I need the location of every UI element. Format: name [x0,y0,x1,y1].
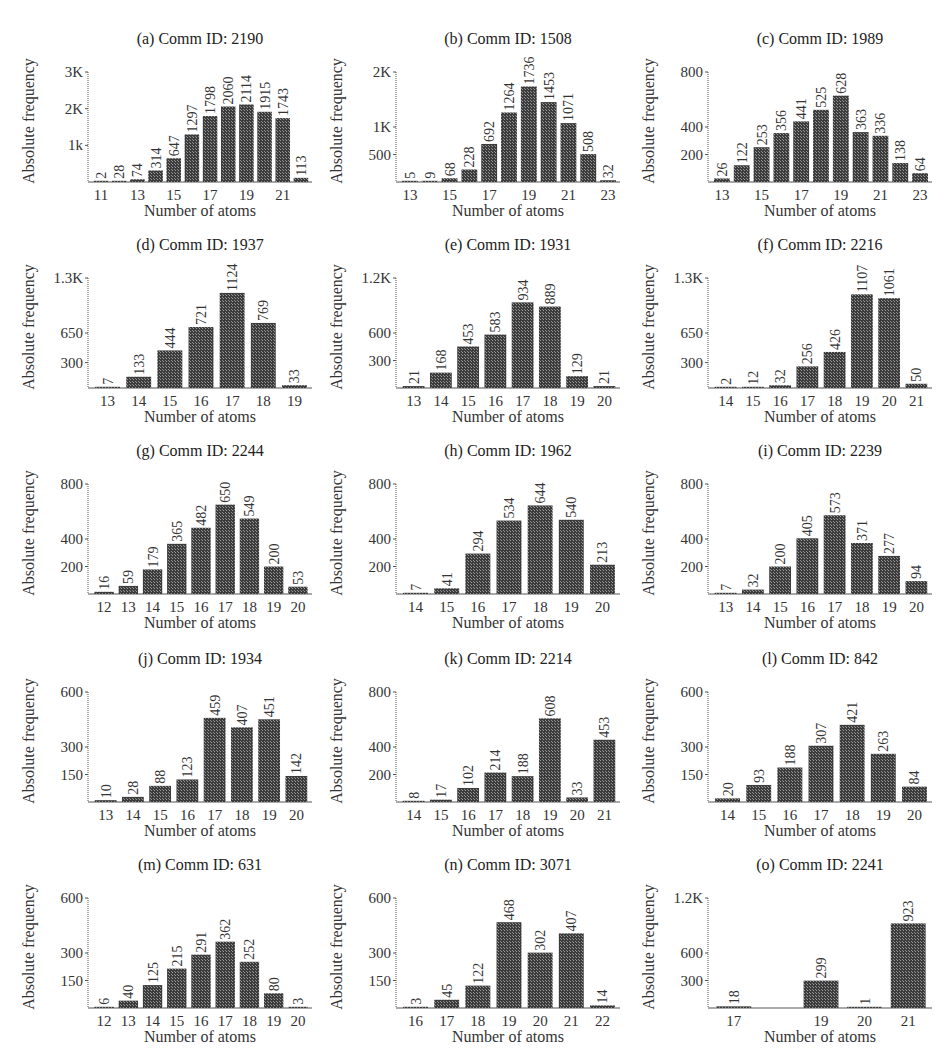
y-tick-label: 500 [369,147,392,163]
bar-value-label: 1071 [561,93,576,121]
bar [240,962,259,1008]
chart-panel: (a) Comm ID: 2190Absolute frequencyNumbe… [10,20,320,220]
y-tick-label: 600 [369,325,392,341]
y-axis-label: Absolute frequency [328,264,346,390]
x-tick-label: 16 [773,393,789,409]
y-tick-label: 200 [369,767,392,783]
chart-title: (l) Comm ID: 842 [762,650,878,668]
x-tick-label: 16 [461,807,477,823]
bar-value-label: 125 [146,962,161,983]
bar-value-label: 453 [461,323,476,344]
x-tick-label: 13 [718,599,733,615]
y-tick-label: 1.3K [673,270,703,286]
bar-value-label: 302 [533,930,548,951]
x-tick-label: 19 [262,807,277,823]
x-tick-label: 15 [442,187,457,203]
y-tick-label: 600 [61,890,84,906]
bar-value-label: 33 [570,781,585,795]
chart-title: (k) Comm ID: 2214 [444,650,572,668]
bar-chart: (o) Comm ID: 2241Absolute frequencyNumbe… [630,846,940,1046]
chart-panel: (b) Comm ID: 1508Absolute frequencyNumbe… [318,20,628,220]
bar [216,942,235,1008]
x-tick-label: 15 [166,187,181,203]
x-tick-label: 16 [180,807,196,823]
bar [257,112,272,182]
x-tick-label: 19 [833,187,848,203]
bar [593,740,615,802]
bar [94,592,113,594]
bar-value-label: 133 [132,354,147,375]
bar [430,373,452,388]
chart-panel: (k) Comm ID: 2214Absolute frequencyNumbe… [318,640,628,840]
x-tick-label: 19 [570,393,585,409]
bar [559,520,584,594]
y-tick-label: 2K [373,64,392,80]
x-axis-label: Number of atoms [452,202,564,219]
bar [793,121,809,182]
bar-value-label: 365 [170,521,185,542]
x-axis-label: Number of atoms [764,822,876,839]
x-axis-label: Number of atoms [144,822,256,839]
bar-value-label: 277 [882,533,897,554]
x-tick-label: 13 [714,187,729,203]
bar [403,593,428,594]
x-tick-label: 21 [909,393,924,409]
bar [457,788,479,802]
figure-grid: (a) Comm ID: 2190Absolute frequencyNumbe… [0,0,944,1056]
bar-value-label: 2060 [221,76,236,104]
bar-value-label: 28 [112,165,127,179]
bar [891,923,926,1008]
bar [176,779,198,802]
x-tick-label: 17 [203,187,219,203]
bar-value-label: 9 [423,172,438,179]
bar-value-label: 53 [291,571,306,585]
bar-value-label: 7 [101,378,116,385]
bar-value-label: 721 [194,304,209,325]
x-axis-label: Number of atoms [764,1028,876,1045]
x-tick-label: 16 [408,1013,424,1029]
bar [734,165,750,182]
x-tick-label: 19 [239,187,254,203]
x-tick-label: 18 [533,599,548,615]
x-tick-label: 18 [256,393,271,409]
bar [143,985,162,1008]
bar [853,132,869,182]
bar [777,768,802,802]
bar-value-label: 200 [267,544,282,565]
bar [905,384,927,388]
y-tick-label: 150 [61,973,84,989]
bar-value-label: 28 [126,781,141,795]
y-tick-label: 300 [681,739,704,755]
bar-value-label: 32 [601,164,616,178]
bar-value-label: 1061 [882,268,897,296]
x-tick-label: 17 [814,807,830,823]
x-tick-label: 20 [290,599,305,615]
x-tick-label: 14 [406,807,422,823]
x-tick-label: 21 [901,1013,916,1029]
x-tick-label: 19 [542,807,557,823]
bar [742,387,764,388]
x-tick-label: 15 [153,807,168,823]
x-tick-label: 17 [502,599,518,615]
bar [166,158,181,182]
x-tick-label: 17 [726,1013,742,1029]
bar [240,519,259,594]
x-tick-label: 15 [754,187,769,203]
y-tick-label: 400 [369,739,392,755]
bar [204,718,226,802]
bar [541,102,557,182]
bar [566,376,588,388]
y-axis-label: Absolute frequency [328,884,346,1010]
bar [600,180,616,182]
x-tick-label: 20 [533,1013,548,1029]
bar [264,567,283,595]
x-tick-label: 17 [800,393,816,409]
bar [742,590,764,594]
bar [461,169,477,182]
bar-value-label: 441 [794,98,809,119]
bar-value-label: 21 [597,370,612,384]
bar-chart: (k) Comm ID: 2214Absolute frequencyNumbe… [318,640,628,840]
bar-value-label: 3 [409,998,424,1005]
bar [216,505,235,594]
bar-value-label: 1453 [542,72,557,100]
